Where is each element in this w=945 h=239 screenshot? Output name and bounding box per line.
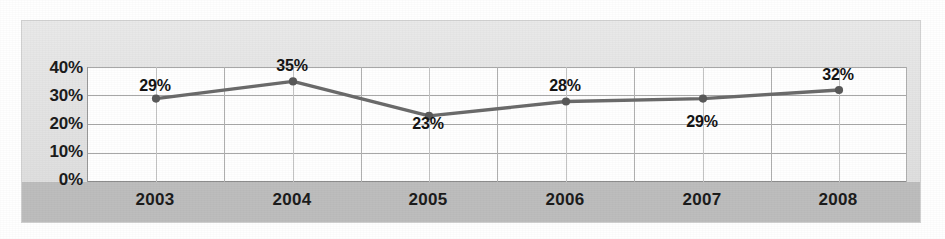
chart-frame: 40% 30% 20% 10% 0% (22, 21, 920, 222)
line-chart-figure: 40% 30% 20% 10% 0% (0, 0, 945, 239)
x-tick-label-2005: 2005 (383, 191, 473, 208)
y-tick-label-40: 40% (23, 59, 83, 76)
x-tick-label-2004: 2004 (247, 191, 337, 208)
point-label-2006: 28% (530, 78, 600, 94)
point-label-2007: 29% (667, 114, 737, 130)
plot-area (87, 67, 907, 182)
point-label-2004: 35% (257, 58, 327, 74)
x-tick-label-2007: 2007 (657, 191, 747, 208)
point-label-2005: 23% (393, 116, 463, 132)
plot-svg (88, 67, 907, 182)
y-tick-label-10: 10% (23, 143, 83, 160)
x-tick-label-2003: 2003 (110, 191, 200, 208)
y-axis-tick-labels: 40% 30% 20% 10% 0% (22, 21, 83, 222)
point-label-2008: 32% (803, 67, 873, 83)
x-tick-label-2008: 2008 (793, 191, 883, 208)
point-label-2003: 29% (120, 78, 190, 94)
y-tick-label-0: 0% (23, 171, 83, 188)
x-tick-label-2006: 2006 (520, 191, 610, 208)
y-tick-label-30: 30% (23, 87, 83, 104)
y-tick-label-20: 20% (23, 115, 83, 132)
